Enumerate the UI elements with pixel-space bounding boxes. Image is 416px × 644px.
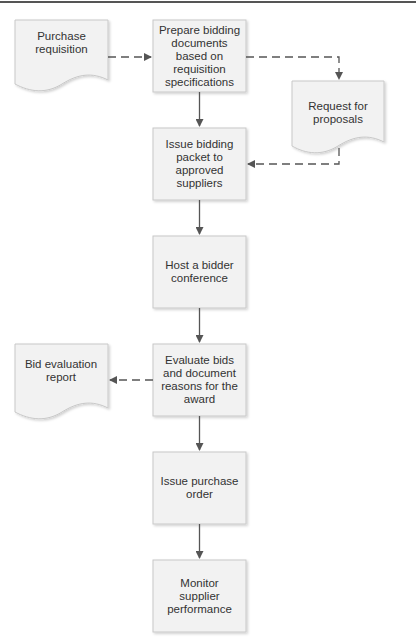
- step-label-issue-po: Issue purchase order: [154, 452, 245, 524]
- step-label-monitor: Monitor supplier performance: [160, 560, 239, 632]
- arrow-prepare-to-rfp: [246, 57, 339, 79]
- document-label-purchase-requisition: Purchase requisition: [15, 30, 108, 56]
- document-label-bid-evaluation-report: Bid evaluation report: [18, 356, 104, 386]
- step-label-host-conference: Host a bidder conference: [160, 236, 239, 308]
- step-label-issue-packet: Issue bidding packet to approved supplie…: [156, 128, 243, 200]
- document-label-request-for-proposals: Request for proposals: [296, 98, 380, 128]
- flowchart-canvas: [0, 0, 416, 644]
- step-label-prepare: Prepare bidding documents based on requi…: [156, 20, 243, 92]
- step-label-evaluate: Evaluate bids and document reasons for t…: [156, 344, 243, 416]
